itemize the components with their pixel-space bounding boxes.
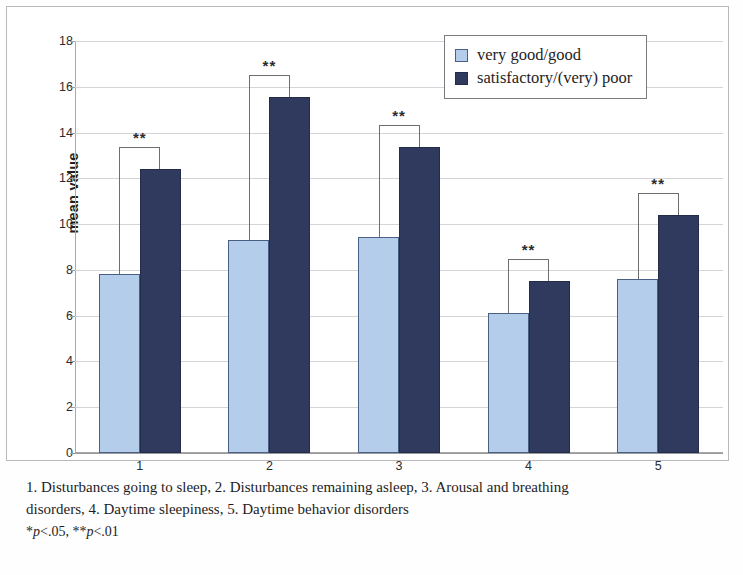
y-axis-tick-label: 6 <box>33 309 73 323</box>
y-axis-tick-label: 8 <box>33 263 73 277</box>
legend-swatch-icon <box>455 72 468 85</box>
figure-caption: 1. Disturbances going to sleep, 2. Distu… <box>26 476 726 543</box>
bracket-leg-right <box>678 193 679 215</box>
pnote-value-1: <.05, <box>40 524 72 539</box>
legend-item-satisfactory-very-poor: satisfactory/(very) poor <box>455 68 632 88</box>
y-axis-tick-label: 10 <box>33 217 73 231</box>
bracket-leg-right <box>419 125 420 147</box>
x-axis-tick-label: 3 <box>339 459 459 473</box>
y-axis-tick-label: 2 <box>33 400 73 414</box>
y-axis-tick-mark <box>70 270 75 271</box>
chart-frame: mean value 181614121086420 ********** 12… <box>6 6 729 461</box>
x-axis-tick-label: 5 <box>598 459 718 473</box>
y-axis-tick-mark <box>70 453 75 454</box>
legend-label: satisfactory/(very) poor <box>477 68 632 88</box>
y-axis-tick-mark <box>70 407 75 408</box>
plot-area: 181614121086420 ********** 12345 <box>75 41 723 453</box>
x-axis-tick-label: 1 <box>80 459 200 473</box>
legend-swatch-icon <box>455 49 468 62</box>
y-axis-tick-mark <box>70 178 75 179</box>
bracket-leg-right <box>548 259 549 281</box>
bracket-top <box>379 125 420 126</box>
caption-line-1: 1. Disturbances going to sleep, 2. Distu… <box>26 476 726 498</box>
y-axis-tick-mark <box>70 133 75 134</box>
gridline <box>75 133 723 134</box>
significance-stars: ** <box>119 133 160 143</box>
y-axis-tick-label: 0 <box>33 446 73 460</box>
bracket-top <box>119 147 160 148</box>
legend-item-very-good-good: very good/good <box>455 45 632 65</box>
bracket-leg-left <box>249 75 250 240</box>
bar <box>358 237 399 453</box>
pnote-value-2: <.01 <box>93 524 118 539</box>
y-axis-tick-mark <box>70 361 75 362</box>
pnote-star-2: ** <box>72 524 86 539</box>
y-axis-tick-mark <box>70 224 75 225</box>
bracket-leg-left <box>638 193 639 279</box>
figure-container: mean value 181614121086420 ********** 12… <box>0 0 743 575</box>
bracket-top <box>508 259 549 260</box>
significance-stars: ** <box>249 61 290 71</box>
y-axis-tick-label: 14 <box>33 126 73 140</box>
bracket-leg-left <box>508 259 509 313</box>
pnote-star-1: * <box>26 524 33 539</box>
pnote-p-1: p <box>33 524 40 539</box>
bracket-leg-left <box>119 147 120 274</box>
x-axis-tick-label: 2 <box>209 459 329 473</box>
x-axis-tick-label: 4 <box>469 459 589 473</box>
significance-stars: ** <box>379 111 420 121</box>
significance-stars: ** <box>508 245 549 255</box>
gridline <box>75 453 723 454</box>
bar <box>658 215 699 453</box>
bracket-leg-right <box>159 147 160 169</box>
bar <box>99 274 140 453</box>
y-axis-tick-label: 12 <box>33 171 73 185</box>
bar <box>617 279 658 453</box>
p-value-note: *p<.05, **p<.01 <box>26 521 726 543</box>
y-axis-tick-label: 4 <box>33 354 73 368</box>
significance-stars: ** <box>638 179 679 189</box>
bar <box>529 281 570 453</box>
bracket-top <box>638 193 679 194</box>
y-axis-tick-mark <box>70 87 75 88</box>
chart-legend: very good/good satisfactory/(very) poor <box>444 35 647 99</box>
y-axis-tick-label: 16 <box>33 80 73 94</box>
bar <box>488 313 529 453</box>
y-axis-tick-mark <box>70 41 75 42</box>
bar <box>140 169 181 453</box>
bracket-leg-left <box>379 125 380 236</box>
legend-label: very good/good <box>477 45 581 65</box>
caption-line-2: disorders, 4. Daytime sleepiness, 5. Day… <box>26 498 726 520</box>
y-axis-tick-mark <box>70 316 75 317</box>
bar <box>269 97 310 453</box>
bar <box>228 240 269 453</box>
bracket-leg-right <box>289 75 290 97</box>
bracket-top <box>249 75 290 76</box>
bar <box>399 147 440 453</box>
y-axis-tick-label: 18 <box>33 34 73 48</box>
